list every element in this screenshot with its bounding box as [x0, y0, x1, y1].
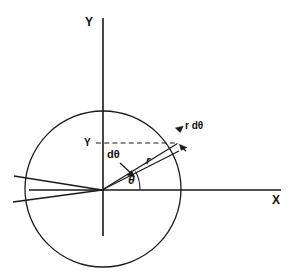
- polar-geometry-figure: Y X Y r θ dθ r dθ: [0, 0, 290, 273]
- arc-element-arrowhead-lower: [180, 145, 187, 151]
- arc-element-label: r dθ: [185, 121, 203, 131]
- wedge-line-lower-left: [13, 190, 102, 202]
- arc-element-arrowhead-upper: [176, 126, 184, 132]
- ordinate-label: Y: [84, 138, 91, 148]
- dtheta-label: dθ: [107, 149, 120, 160]
- diagram-canvas: [0, 0, 290, 273]
- theta-angle-arc: [136, 172, 141, 191]
- radius-label: r: [146, 155, 150, 166]
- x-axis-label: X: [272, 194, 280, 206]
- y-axis-label: Y: [85, 16, 93, 28]
- theta-label: θ: [128, 174, 135, 186]
- wedge-line-upper-left: [14, 176, 102, 190]
